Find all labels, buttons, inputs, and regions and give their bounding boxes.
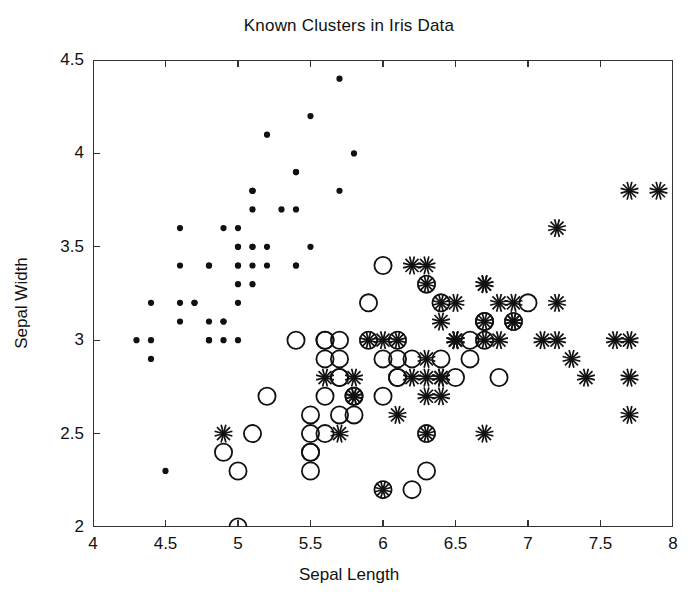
- x-tick-label: 6: [353, 534, 413, 554]
- x-tick-label: 8: [643, 534, 698, 554]
- x-tick-mark: [527, 520, 528, 527]
- x-tick-label: 5: [208, 534, 268, 554]
- y-tick-label: 4.5: [32, 50, 84, 70]
- x-tick-label: 4.5: [136, 534, 196, 554]
- chart-title: Known Clusters in Iris Data: [0, 16, 698, 36]
- x-tick-mark-top: [382, 60, 383, 67]
- x-tick-mark-top: [237, 60, 238, 67]
- x-axis-tick-labels: 44.555.566.577.58: [0, 534, 698, 560]
- chart-figure: Known Clusters in Iris Data 22.533.544.5…: [0, 0, 698, 606]
- x-axis-title: Sepal Length: [0, 565, 698, 585]
- x-tick-mark: [455, 520, 456, 527]
- x-tick-label: 4: [63, 534, 123, 554]
- x-tick-mark-top: [527, 60, 528, 67]
- x-tick-mark: [237, 520, 238, 527]
- y-axis-title: Sepal Width: [12, 183, 32, 423]
- x-tick-mark: [165, 520, 166, 527]
- y-tick-mark: [93, 340, 100, 341]
- x-tick-mark: [382, 520, 383, 527]
- y-tick-mark: [93, 153, 100, 154]
- x-tick-mark-top: [455, 60, 456, 67]
- x-tick-mark-top: [310, 60, 311, 67]
- y-tick-mark: [93, 433, 100, 434]
- y-tick-label: 3: [32, 330, 84, 350]
- x-tick-mark: [600, 520, 601, 527]
- y-tick-label: 3.5: [32, 237, 84, 257]
- x-tick-mark: [310, 520, 311, 527]
- x-tick-label: 7: [498, 534, 558, 554]
- y-tick-label: 4: [32, 143, 84, 163]
- x-tick-mark-top: [165, 60, 166, 67]
- y-tick-label: 2.5: [32, 424, 84, 444]
- x-tick-label: 7.5: [571, 534, 631, 554]
- plot-area: [93, 60, 673, 527]
- x-tick-label: 6.5: [426, 534, 486, 554]
- x-tick-mark-top: [600, 60, 601, 67]
- y-tick-mark: [93, 246, 100, 247]
- x-tick-label: 5.5: [281, 534, 341, 554]
